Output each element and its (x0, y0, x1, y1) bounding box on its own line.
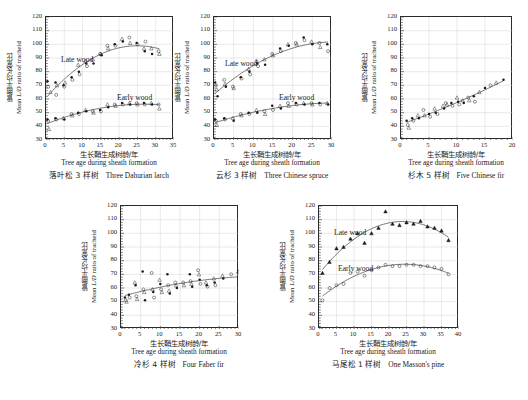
data-point-open (342, 282, 345, 285)
y-tick-label: 50 (298, 297, 315, 304)
x-tick-label: 5 (328, 331, 344, 338)
y-tick-label: 110 (298, 215, 315, 222)
data-point-triangle (440, 229, 444, 232)
x-tick-label: 40 (450, 331, 466, 338)
panel-caption-en: One Masson's pine (388, 360, 444, 369)
data-point-triangle (384, 210, 388, 213)
panel-massons-pine: 304050607080901001101200510152025303540管… (0, 0, 528, 400)
x-axis-label-cn: 生长鞘生成树龄/年 (298, 339, 478, 348)
data-point-triangle (349, 237, 353, 240)
x-tick-label: 35 (433, 331, 449, 338)
data-point-open (398, 265, 401, 268)
data-point-open (426, 265, 429, 268)
y-tick-label: 80 (298, 256, 315, 263)
data-point-triangle (321, 271, 325, 274)
data-point-open (419, 265, 422, 268)
y-tick-label: 40 (298, 311, 315, 318)
data-point-open (363, 274, 366, 277)
y-tick-label: 90 (298, 243, 315, 250)
early-wood-annotation: Early wood (338, 265, 373, 273)
y-tick-label: 120 (298, 202, 315, 209)
data-point-triangle (447, 238, 451, 241)
x-axis-label-en: Tree age during sheath formation (298, 348, 478, 357)
x-tick-label: 25 (398, 331, 414, 338)
data-point-triangle (363, 241, 367, 244)
data-point-open (321, 299, 324, 302)
y-tick-label: 70 (298, 270, 315, 277)
panel-caption-cn: 马尾松 1 样树 (332, 360, 382, 369)
figure-tracheid-ld-ratio-panels: 3040506070809010011012005101520253035管胞平… (0, 0, 528, 400)
x-axis-label: 生长鞘生成树龄/年Tree age during sheath formatio… (298, 339, 478, 357)
x-tick-label: 10 (345, 331, 361, 338)
x-tick-label: 0 (310, 331, 326, 338)
x-tick-label: 15 (363, 331, 379, 338)
y-tick-label: 100 (298, 229, 315, 236)
data-point-triangle (398, 223, 402, 226)
x-tick-label: 20 (380, 331, 396, 338)
data-point-triangle (433, 226, 437, 229)
late-wood-annotation: Late wood (334, 229, 366, 237)
x-tick-label: 30 (415, 331, 431, 338)
panel-caption: 马尾松 1 样树One Masson's pine (293, 360, 483, 370)
y-axis-label: 管胞平均长宽比Mean L/D ratio of tracheid (280, 205, 296, 328)
data-point-triangle (405, 221, 409, 224)
y-tick-label: 60 (298, 284, 315, 291)
